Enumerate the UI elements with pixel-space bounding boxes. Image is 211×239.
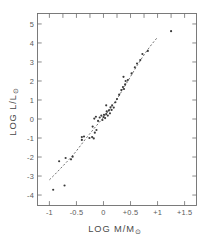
data-point: [114, 101, 116, 103]
data-series: [52, 30, 172, 191]
x-tick-label: +1: [153, 208, 162, 217]
x-tick-label: +0.5: [123, 208, 138, 217]
axes-box: [38, 14, 197, 206]
x-tick-label: 0: [101, 208, 105, 217]
data-point: [136, 62, 138, 64]
data-point: [122, 86, 124, 88]
data-point: [107, 115, 109, 117]
data-point: [99, 116, 101, 118]
data-point: [58, 160, 60, 162]
y-tick-label: 2: [30, 77, 34, 86]
data-point: [109, 106, 111, 108]
data-point: [72, 156, 74, 158]
data-point: [93, 137, 95, 139]
data-point: [124, 83, 126, 85]
x-axis-title-subscript: ⊙: [135, 228, 142, 235]
data-point: [97, 120, 99, 122]
y-tick-label: -2: [27, 153, 34, 162]
data-point: [123, 88, 125, 90]
data-point: [116, 98, 118, 100]
chart-canvas: -4-3-2-1012345-1-0.50+0.5+1+1.5LOG M/M⊙L…: [0, 0, 211, 239]
data-point: [81, 139, 83, 141]
data-point: [104, 117, 106, 119]
y-tick-label: 4: [30, 39, 34, 48]
x-tick-label: +1.5: [177, 208, 192, 217]
data-point: [105, 104, 107, 106]
data-point: [122, 76, 124, 78]
data-point: [52, 189, 54, 191]
data-point: [92, 126, 94, 128]
data-point: [139, 59, 141, 61]
data-point: [118, 94, 120, 96]
y-tick-label: 0: [30, 115, 34, 124]
data-point: [147, 50, 149, 52]
y-tick-label: -1: [27, 134, 34, 143]
data-point: [88, 137, 90, 139]
data-point: [111, 104, 113, 106]
y-tick-label: -3: [27, 172, 34, 181]
data-point: [113, 107, 115, 109]
data-point: [81, 136, 83, 138]
y-axis-title: LOG L/L⊙: [8, 87, 20, 135]
data-point: [95, 116, 97, 118]
data-point: [94, 132, 96, 134]
data-point: [65, 157, 67, 159]
data-point: [127, 79, 129, 81]
data-point: [131, 72, 133, 74]
data-point: [120, 89, 122, 91]
data-point: [100, 115, 102, 117]
x-tick-label: -0.5: [70, 208, 84, 217]
data-point: [106, 110, 108, 112]
data-point: [93, 118, 95, 120]
data-point: [109, 112, 111, 114]
data-point: [111, 109, 113, 111]
data-point: [101, 119, 103, 121]
data-point: [108, 109, 110, 111]
data-point: [103, 114, 105, 116]
y-tick-label: 1: [30, 96, 34, 105]
data-point: [134, 66, 136, 68]
data-point: [95, 129, 97, 131]
x-tick-label: -1: [46, 208, 53, 217]
plot-frame: [38, 14, 197, 206]
y-tick-label: 5: [30, 20, 34, 29]
y-tick-label: -4: [27, 191, 34, 200]
data-point: [170, 30, 172, 32]
x-axis-title: LOG M/M⊙: [88, 224, 142, 236]
data-point: [83, 135, 85, 137]
data-point: [105, 113, 107, 115]
data-point: [141, 53, 143, 55]
data-point: [70, 158, 72, 160]
y-axis-title-subscript: ⊙: [12, 87, 19, 94]
data-point: [125, 80, 127, 82]
x-axis-ticks: -1-0.50+0.5+1+1.5: [46, 14, 192, 218]
y-tick-label: 3: [30, 58, 34, 67]
data-point: [63, 184, 65, 186]
mass-luminosity-scatter-plot: -4-3-2-1012345-1-0.50+0.5+1+1.5LOG M/M⊙L…: [0, 0, 211, 239]
